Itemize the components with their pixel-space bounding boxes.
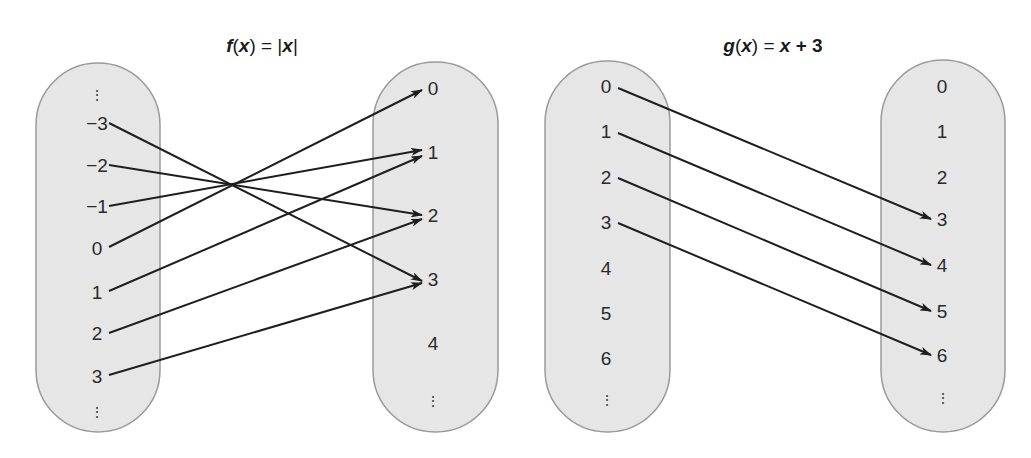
ellipsis-icon: ⋮ <box>426 393 440 409</box>
domain-value: 2 <box>92 323 103 344</box>
ellipsis-icon: ⋮ <box>936 390 950 406</box>
range-value: 2 <box>428 205 439 226</box>
range-value: 0 <box>428 78 439 99</box>
range-value: 5 <box>937 301 948 322</box>
range-value: 3 <box>428 269 439 290</box>
domain-value: −2 <box>86 155 108 176</box>
range-oval-f <box>373 62 498 432</box>
range-value: 3 <box>937 209 948 230</box>
range-value: 1 <box>937 121 948 142</box>
diagram-g: g(x) = x + 3 0123456⋮ 0123456⋮ <box>545 35 1005 432</box>
diagram-f: f(x) = |x| ⋮−3−2−10123⋮ 01234⋮ <box>36 35 498 432</box>
domain-value: 4 <box>601 258 612 279</box>
domain-value: −3 <box>86 113 108 134</box>
domain-value: −1 <box>86 196 108 217</box>
range-value: 1 <box>428 142 439 163</box>
diagram-title-g: g(x) = x + 3 <box>722 35 822 56</box>
ellipsis-icon: ⋮ <box>90 87 104 103</box>
domain-value: 1 <box>92 282 103 303</box>
range-value: 4 <box>937 255 948 276</box>
domain-oval-g <box>545 61 670 432</box>
range-oval-g <box>881 60 1005 432</box>
domain-value: 2 <box>601 167 612 188</box>
domain-value: 3 <box>92 366 103 387</box>
ellipsis-icon: ⋮ <box>90 404 104 420</box>
range-value: 0 <box>937 76 948 97</box>
domain-value: 1 <box>601 121 612 142</box>
domain-value: 0 <box>92 238 103 259</box>
range-value: 6 <box>937 345 948 366</box>
domain-value: 5 <box>601 303 612 324</box>
mapping-diagrams-canvas: f(x) = |x| ⋮−3−2−10123⋮ 01234⋮ g(x) = x … <box>0 0 1031 458</box>
domain-value: 0 <box>601 76 612 97</box>
domain-value: 3 <box>601 212 612 233</box>
range-value: 4 <box>428 333 439 354</box>
diagram-title-f: f(x) = |x| <box>226 35 298 56</box>
range-value: 2 <box>937 167 948 188</box>
ellipsis-icon: ⋮ <box>600 392 614 408</box>
domain-value: 6 <box>601 348 612 369</box>
